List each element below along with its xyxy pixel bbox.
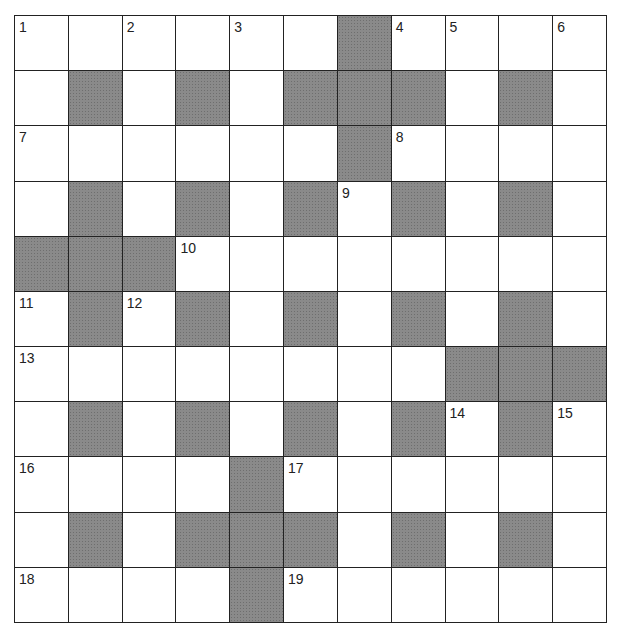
answer-cell[interactable]: 17 [284,457,337,511]
answer-cell[interactable] [123,347,176,401]
block-cell [176,292,229,346]
answer-cell[interactable] [69,457,122,511]
block-cell [392,292,445,346]
answer-cell[interactable] [123,457,176,511]
answer-cell[interactable] [338,237,391,291]
answer-cell[interactable] [392,457,445,511]
answer-cell[interactable] [123,568,176,622]
clue-number: 12 [127,296,143,310]
answer-cell[interactable] [392,237,445,291]
answer-cell[interactable] [176,457,229,511]
answer-cell[interactable]: 3 [230,16,283,70]
answer-cell[interactable] [553,71,606,125]
answer-cell[interactable] [446,182,499,236]
answer-cell[interactable] [553,126,606,180]
answer-cell[interactable]: 4 [392,16,445,70]
answer-cell[interactable] [553,182,606,236]
answer-cell[interactable] [338,457,391,511]
block-cell [284,71,337,125]
answer-cell[interactable] [446,71,499,125]
answer-cell[interactable] [69,347,122,401]
answer-cell[interactable] [284,16,337,70]
answer-cell[interactable] [69,16,122,70]
clue-number: 13 [19,351,35,365]
answer-cell[interactable] [446,237,499,291]
answer-cell[interactable] [230,71,283,125]
answer-cell[interactable] [123,126,176,180]
answer-cell[interactable] [446,513,499,567]
answer-cell[interactable] [284,347,337,401]
answer-cell[interactable] [284,126,337,180]
answer-cell[interactable] [338,347,391,401]
answer-cell[interactable] [230,292,283,346]
answer-cell[interactable] [176,347,229,401]
answer-cell[interactable] [123,71,176,125]
answer-cell[interactable] [553,568,606,622]
answer-cell[interactable] [69,126,122,180]
answer-cell[interactable]: 13 [15,347,68,401]
answer-cell[interactable] [553,513,606,567]
block-cell [499,402,552,456]
clue-number: 14 [450,406,466,420]
answer-cell[interactable] [230,402,283,456]
answer-cell[interactable] [230,347,283,401]
answer-cell[interactable] [553,292,606,346]
block-cell [69,402,122,456]
answer-cell[interactable]: 2 [123,16,176,70]
block-cell [284,182,337,236]
answer-cell[interactable] [338,292,391,346]
answer-cell[interactable] [176,126,229,180]
answer-cell[interactable] [499,126,552,180]
answer-cell[interactable]: 10 [176,237,229,291]
answer-cell[interactable] [230,237,283,291]
answer-cell[interactable] [230,182,283,236]
answer-cell[interactable]: 15 [553,402,606,456]
answer-cell[interactable]: 6 [553,16,606,70]
answer-cell[interactable] [392,347,445,401]
answer-cell[interactable]: 1 [15,16,68,70]
answer-cell[interactable] [123,513,176,567]
answer-cell[interactable]: 16 [15,457,68,511]
answer-cell[interactable] [553,237,606,291]
clue-number: 5 [450,20,458,34]
answer-cell[interactable] [499,16,552,70]
answer-cell[interactable] [338,568,391,622]
answer-cell[interactable] [392,568,445,622]
answer-cell[interactable] [15,182,68,236]
answer-cell[interactable] [176,16,229,70]
answer-cell[interactable] [499,237,552,291]
answer-cell[interactable] [338,402,391,456]
answer-cell[interactable] [446,126,499,180]
answer-cell[interactable] [499,457,552,511]
answer-cell[interactable] [499,568,552,622]
answer-cell[interactable]: 11 [15,292,68,346]
clue-number: 9 [342,186,350,200]
answer-cell[interactable]: 8 [392,126,445,180]
answer-cell[interactable] [123,182,176,236]
answer-cell[interactable] [446,568,499,622]
answer-cell[interactable] [69,568,122,622]
answer-cell[interactable] [553,457,606,511]
answer-cell[interactable] [284,237,337,291]
answer-cell[interactable]: 7 [15,126,68,180]
answer-cell[interactable]: 18 [15,568,68,622]
answer-cell[interactable]: 9 [338,182,391,236]
block-cell [284,292,337,346]
answer-cell[interactable]: 19 [284,568,337,622]
answer-cell[interactable] [15,513,68,567]
clue-number: 4 [396,20,404,34]
answer-cell[interactable] [176,568,229,622]
block-cell [176,182,229,236]
answer-cell[interactable] [15,402,68,456]
answer-cell[interactable] [338,513,391,567]
answer-cell[interactable]: 12 [123,292,176,346]
answer-cell[interactable] [446,457,499,511]
answer-cell[interactable] [15,71,68,125]
answer-cell[interactable] [446,292,499,346]
block-cell [123,237,176,291]
answer-cell[interactable]: 14 [446,402,499,456]
clue-number: 19 [288,572,304,586]
answer-cell[interactable] [123,402,176,456]
answer-cell[interactable] [230,126,283,180]
answer-cell[interactable]: 5 [446,16,499,70]
